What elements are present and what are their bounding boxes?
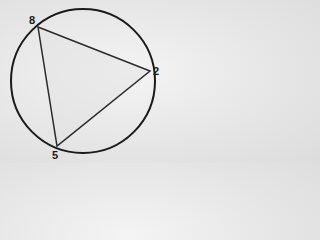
vertex-label-2: 2 xyxy=(153,65,159,77)
inscribed-triangle xyxy=(38,27,150,146)
circle-triangle-diagram: 8 2 5 xyxy=(0,0,164,163)
vertex-label-8: 8 xyxy=(29,14,35,26)
vertex-label-5: 5 xyxy=(52,149,58,161)
